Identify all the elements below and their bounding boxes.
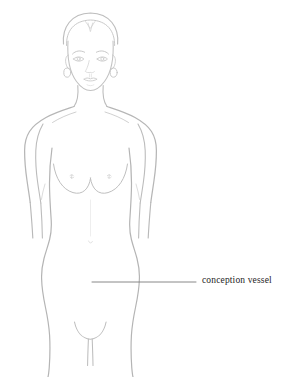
torso-sides (42, 148, 140, 377)
chin-crease (87, 85, 94, 86)
neck (74, 86, 107, 107)
arm-left (36, 124, 43, 238)
philtrum (90, 74, 92, 77)
body-illustration (0, 0, 301, 377)
lips (84, 78, 97, 81)
arm-left-outer-lower (30, 203, 33, 239)
inner-thigh-left (88, 339, 89, 366)
widows-peak-icon (86, 22, 96, 32)
navel (89, 241, 93, 243)
anatomical-figure: conception vessel (0, 0, 301, 377)
groin-outline (75, 322, 107, 339)
elbow-crease-right (136, 184, 140, 200)
arm-right-outer-lower (148, 203, 151, 239)
earring-left-icon (64, 68, 71, 77)
annotation-label-conception-vessel: conception vessel (202, 275, 272, 286)
eyebrow-left (73, 51, 85, 54)
eye-left (74, 57, 84, 61)
nose (85, 61, 94, 73)
face-outline (68, 41, 113, 91)
elbow-crease-left (41, 184, 45, 200)
breast-right (90, 164, 127, 193)
hairline (66, 20, 114, 46)
clavicle (53, 112, 129, 123)
inner-thigh-right (92, 339, 93, 366)
earring-right-icon (110, 68, 117, 77)
eye-right (97, 57, 107, 61)
nipple-left-icon (70, 175, 74, 179)
torso-outline (25, 107, 157, 203)
arm-right (138, 124, 145, 238)
eyebrow-right (96, 51, 108, 54)
breast-left (54, 164, 91, 193)
nipple-right-icon (107, 175, 111, 179)
